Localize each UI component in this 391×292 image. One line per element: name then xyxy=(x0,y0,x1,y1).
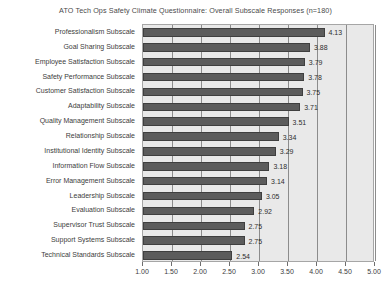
x-axis: 1.001.502.002.503.003.504.004.505.00 xyxy=(142,262,374,286)
bar-row: 3.79 xyxy=(143,58,373,67)
bar xyxy=(143,73,304,82)
chart-title: ATO Tech Ops Safety Climate Questionnair… xyxy=(0,6,391,15)
bar-value-label: 3.79 xyxy=(309,59,323,66)
bar xyxy=(143,117,289,126)
x-axis-tick xyxy=(229,262,230,266)
category-label: Employee Satisfaction Subscale xyxy=(35,58,135,65)
bar xyxy=(143,177,267,186)
bars-layer: 4.133.883.793.783.753.713.513.343.293.18… xyxy=(143,25,373,261)
x-axis-tick-label: 2.50 xyxy=(222,268,236,275)
bar xyxy=(143,236,245,245)
bar-row: 3.14 xyxy=(143,177,373,186)
bar-row: 3.05 xyxy=(143,192,373,201)
bar-value-label: 3.29 xyxy=(280,148,294,155)
x-axis-tick-label: 1.00 xyxy=(135,268,149,275)
x-axis-tick xyxy=(345,262,346,266)
bar-value-label: 3.05 xyxy=(266,193,280,200)
bar-row: 3.71 xyxy=(143,103,373,112)
bar xyxy=(143,28,325,37)
bar-row: 2.75 xyxy=(143,236,373,245)
category-label: Evaluation Subscale xyxy=(72,206,135,213)
bar-row: 3.75 xyxy=(143,88,373,97)
bar xyxy=(143,132,279,141)
bar-row: 3.29 xyxy=(143,147,373,156)
category-axis: Professionalism SubscaleGoal Sharing Sub… xyxy=(0,24,139,262)
bar-value-label: 2.92 xyxy=(258,207,272,214)
x-axis-tick xyxy=(171,262,172,266)
bar-chart: ATO Tech Ops Safety Climate Questionnair… xyxy=(0,0,391,292)
bar xyxy=(143,207,254,216)
bar xyxy=(143,251,232,260)
category-label: Information Flow Subscale xyxy=(53,162,135,169)
x-axis-tick xyxy=(374,262,375,266)
bar-value-label: 3.75 xyxy=(307,88,321,95)
bar-row: 3.78 xyxy=(143,73,373,82)
category-label: Technical Standards Subscale xyxy=(41,251,135,258)
x-axis-tick-label: 5.00 xyxy=(367,268,381,275)
gridline xyxy=(375,25,376,261)
category-label: Institutional Identity Subscale xyxy=(44,147,135,154)
x-axis-tick-label: 1.50 xyxy=(164,268,178,275)
category-label: Support Systems Subscale xyxy=(51,236,135,243)
category-label: Safety Performance Subscale xyxy=(42,73,135,80)
bar-value-label: 4.13 xyxy=(329,29,343,36)
x-axis-tick-label: 2.00 xyxy=(193,268,207,275)
x-axis-tick xyxy=(316,262,317,266)
category-label: Goal Sharing Subscale xyxy=(63,43,135,50)
bar xyxy=(143,43,310,52)
x-axis-tick xyxy=(142,262,143,266)
category-label: Professionalism Subscale xyxy=(55,28,135,35)
x-axis-tick xyxy=(258,262,259,266)
bar xyxy=(143,192,262,201)
bar-row: 3.88 xyxy=(143,43,373,52)
category-label: Error Management Subscale xyxy=(46,177,135,184)
x-axis-tick-label: 4.50 xyxy=(338,268,352,275)
bar-row: 3.51 xyxy=(143,117,373,126)
category-label: Customer Satisfaction Subscale xyxy=(36,87,135,94)
bar-value-label: 2.75 xyxy=(249,222,263,229)
bar-value-label: 3.51 xyxy=(293,118,307,125)
bar-row: 3.18 xyxy=(143,162,373,171)
x-axis-tick xyxy=(287,262,288,266)
category-label: Adaptability Subscale xyxy=(68,102,135,109)
bar xyxy=(143,103,300,112)
x-axis-tick xyxy=(200,262,201,266)
bar-row: 3.34 xyxy=(143,132,373,141)
bar-value-label: 3.34 xyxy=(283,133,297,140)
bar-value-label: 3.78 xyxy=(308,74,322,81)
bar-value-label: 2.54 xyxy=(236,252,250,259)
bar xyxy=(143,88,303,97)
plot-area: 4.133.883.793.783.753.713.513.343.293.18… xyxy=(142,24,374,262)
category-label: Leadership Subscale xyxy=(70,192,135,199)
bar-row: 2.75 xyxy=(143,222,373,231)
category-label: Supervisor Trust Subscale xyxy=(53,221,135,228)
bar xyxy=(143,162,269,171)
bar xyxy=(143,58,305,67)
bar-value-label: 3.71 xyxy=(304,103,318,110)
x-axis-tick-label: 4.00 xyxy=(309,268,323,275)
bar-value-label: 3.18 xyxy=(273,163,287,170)
bar-value-label: 3.88 xyxy=(314,44,328,51)
x-axis-tick-label: 3.00 xyxy=(251,268,265,275)
x-axis-tick-label: 3.50 xyxy=(280,268,294,275)
category-label: Quality Management Subscale xyxy=(40,117,135,124)
bar-value-label: 3.14 xyxy=(271,178,285,185)
bar xyxy=(143,222,245,231)
bar-row: 2.92 xyxy=(143,207,373,216)
bar-row: 4.13 xyxy=(143,28,373,37)
bar xyxy=(143,147,276,156)
bar-row: 2.54 xyxy=(143,251,373,260)
category-label: Relationship Subscale xyxy=(66,132,135,139)
bar-value-label: 2.75 xyxy=(249,237,263,244)
